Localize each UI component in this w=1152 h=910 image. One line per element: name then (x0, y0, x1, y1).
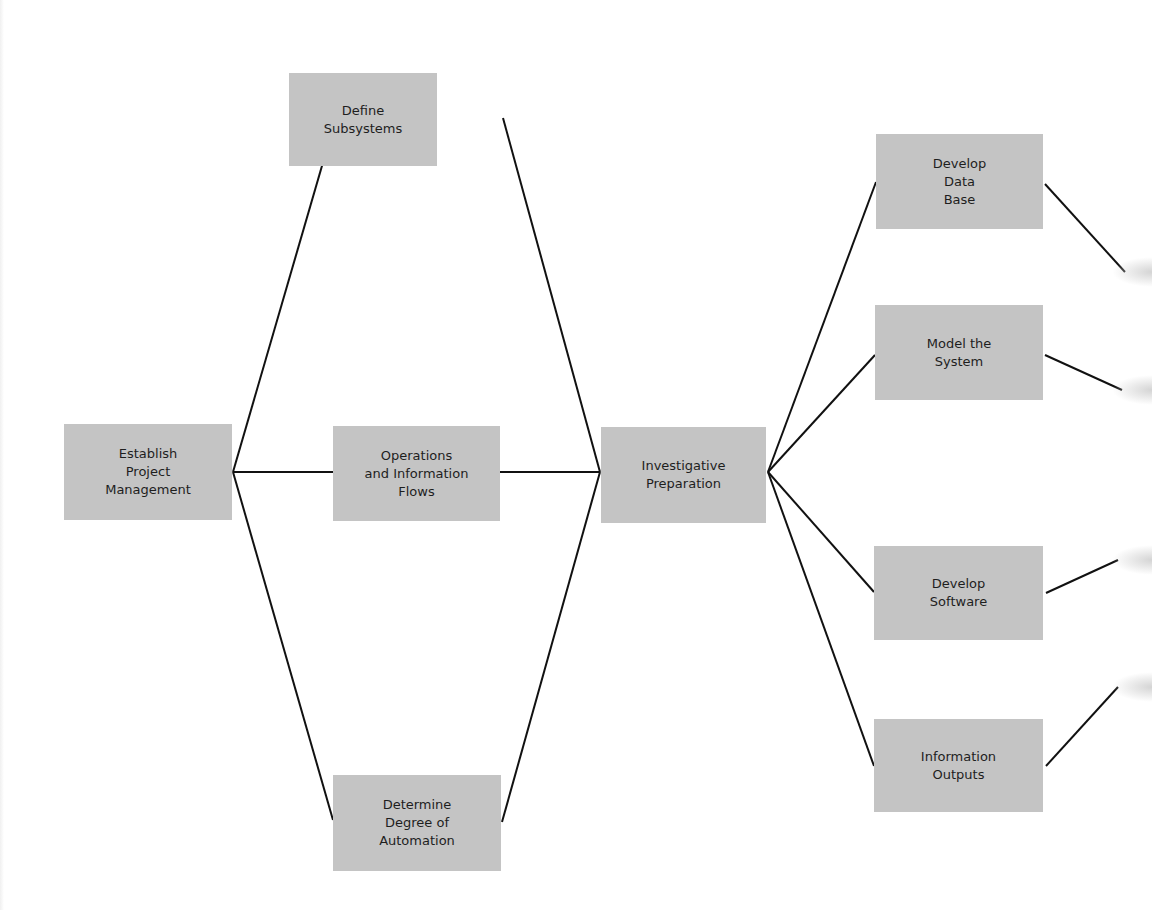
node-define: Define Subsystems (289, 73, 437, 166)
node-determine: Determine Degree of Automation (333, 775, 501, 871)
edge-investigative-to-outputs (768, 472, 874, 766)
node-label: Model the System (927, 335, 992, 371)
node-label: Establish Project Management (105, 445, 191, 499)
node-label: Investigative Preparation (642, 457, 726, 493)
edge-establish-to-determine (233, 472, 333, 820)
node-establish: Establish Project Management (64, 424, 232, 520)
edge-outputs-to-offpage (1046, 687, 1118, 766)
node-investigative: Investigative Preparation (601, 427, 766, 523)
edge-define-to-investigative (503, 118, 600, 472)
node-operations: Operations and Information Flows (333, 426, 500, 521)
node-label: Determine Degree of Automation (379, 796, 455, 850)
edge-establish-to-define (233, 128, 333, 472)
edge-software-to-offpage (1046, 560, 1118, 593)
edge-investigative-to-software (768, 472, 874, 592)
edge-determine-to-investigative (502, 472, 600, 822)
offpage-connector (1112, 545, 1152, 575)
node-label: Operations and Information Flows (365, 447, 469, 501)
node-database: Develop Data Base (876, 134, 1043, 229)
edge-investigative-to-database (768, 182, 876, 472)
node-label: Define Subsystems (324, 102, 403, 138)
offpage-connector (1112, 375, 1152, 405)
edge-investigative-to-model (768, 355, 875, 472)
node-label: Develop Data Base (933, 155, 987, 209)
node-outputs: Information Outputs (874, 719, 1043, 812)
node-model: Model the System (875, 305, 1043, 400)
offpage-connector (1112, 672, 1152, 702)
edge-model-to-offpage (1045, 355, 1122, 390)
offpage-connector (1112, 257, 1152, 287)
node-label: Information Outputs (921, 748, 996, 784)
node-software: Develop Software (874, 546, 1043, 640)
node-label: Develop Software (930, 575, 987, 611)
